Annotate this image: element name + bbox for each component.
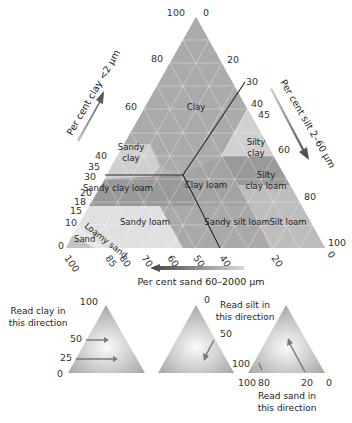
label-sandy-clay-1: Sandy	[118, 142, 144, 152]
svg-text:30: 30	[84, 171, 96, 182]
svg-text:0: 0	[58, 240, 64, 251]
label-silty-clay-2: clay	[247, 148, 264, 158]
soil-texture-diagram: Clay Sandy clay Silty clay Sandy clay lo…	[0, 0, 352, 423]
svg-text:this direction: this direction	[9, 318, 68, 328]
label-silty-clay-loam-1: Silty	[257, 170, 275, 180]
svg-text:15: 15	[70, 205, 82, 216]
svg-text:20: 20	[227, 54, 239, 65]
svg-text:100: 100	[167, 7, 185, 18]
svg-text:100: 100	[62, 253, 81, 274]
svg-text:50: 50	[70, 333, 82, 344]
svg-text:100: 100	[328, 237, 346, 248]
svg-text:30: 30	[246, 76, 258, 87]
svg-text:20: 20	[301, 377, 313, 388]
svg-text:20: 20	[269, 253, 285, 269]
svg-text:0: 0	[326, 377, 332, 388]
svg-text:45: 45	[258, 109, 270, 120]
label-sandy-clay-loam: Sandy clay loam	[83, 183, 153, 193]
sand-ticks: 100 85 80 70 60 50 40 20 0	[62, 249, 337, 274]
label-sand: Sand	[74, 234, 95, 244]
svg-text:Read sand in: Read sand in	[258, 391, 316, 401]
svg-text:70: 70	[139, 253, 155, 269]
svg-text:85: 85	[103, 253, 119, 269]
label-clay: Clay	[187, 102, 206, 112]
svg-text:0: 0	[57, 368, 63, 379]
label-sandy-clay-2: clay	[122, 153, 139, 163]
silt-axis: Per cent silt 2–60 μm	[270, 78, 338, 170]
svg-text:60: 60	[125, 101, 137, 112]
label-clay-loam: Clay loam	[185, 180, 227, 190]
svg-text:100: 100	[80, 296, 98, 307]
svg-text:40: 40	[251, 98, 263, 109]
svg-text:80: 80	[304, 191, 316, 202]
svg-text:0: 0	[203, 7, 209, 18]
clay-axis: Per cent clay <2 μm	[64, 48, 122, 142]
svg-text:this direction: this direction	[258, 403, 317, 413]
svg-text:0: 0	[204, 294, 210, 305]
svg-text:Per cent clay <2 μm: Per cent clay <2 μm	[64, 48, 122, 137]
svg-text:Read silt in: Read silt in	[220, 300, 270, 310]
svg-text:this direction: this direction	[216, 312, 275, 322]
svg-text:0: 0	[325, 249, 337, 260]
svg-text:Per cent sand 60–2000 μm: Per cent sand 60–2000 μm	[137, 276, 264, 287]
svg-text:25: 25	[60, 352, 72, 363]
svg-text:60: 60	[278, 144, 290, 155]
svg-text:Read clay in: Read clay in	[11, 306, 66, 316]
svg-text:80: 80	[151, 53, 163, 64]
svg-text:100: 100	[232, 358, 250, 369]
svg-text:100: 100	[238, 377, 256, 388]
svg-text:10: 10	[65, 217, 77, 228]
label-silty-clay-loam-2: clay loam	[245, 181, 286, 191]
svg-text:40: 40	[95, 150, 107, 161]
svg-text:50: 50	[220, 328, 232, 339]
label-silt-loam: Silt loam	[269, 217, 306, 227]
sand-axis: Per cent sand 60–2000 μm	[137, 264, 264, 287]
label-silty-clay-1: Silty	[247, 137, 265, 147]
legend-clay: Read clay in this direction 100 50 25 0	[9, 296, 145, 379]
label-sandy-silt-loam: Sandy silt loam	[204, 217, 269, 227]
label-sandy-loam: Sandy loam	[120, 217, 170, 227]
svg-text:80: 80	[258, 377, 270, 388]
main-triangle	[66, 17, 325, 248]
